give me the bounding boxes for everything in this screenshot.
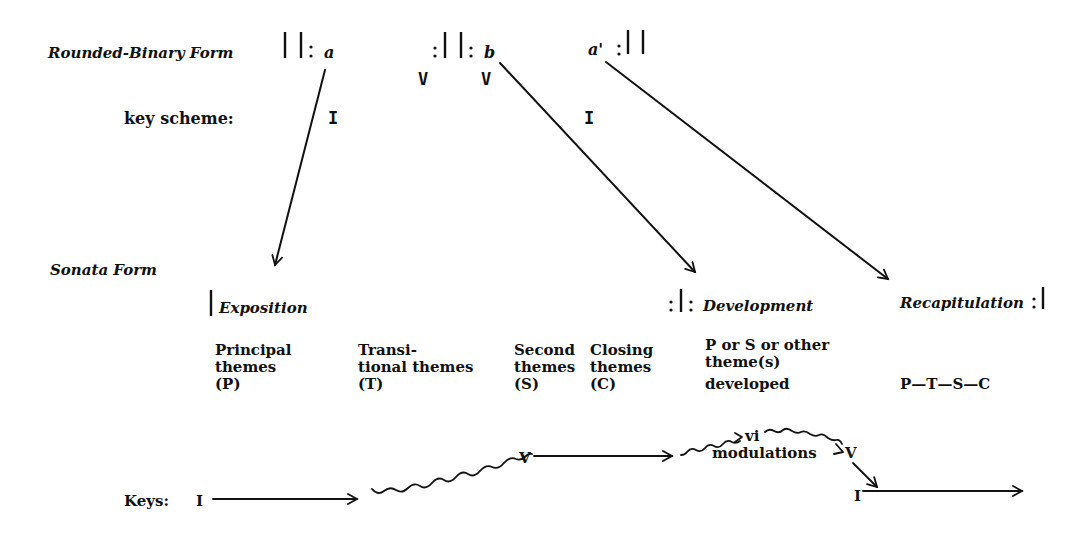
theme-principal: Principal themes (P) bbox=[215, 341, 292, 393]
svg-text:developed: developed bbox=[705, 375, 790, 393]
theme-transitional: Transi- tional themes (T) bbox=[358, 341, 473, 393]
repeat-close-open-sign bbox=[433, 32, 472, 58]
svg-text:themes: themes bbox=[590, 358, 651, 376]
recapitulation-label: Recapitulation bbox=[899, 294, 1024, 312]
svg-text:Principal: Principal bbox=[215, 341, 292, 359]
modulation-wave-to-dominant bbox=[372, 454, 532, 493]
modulation-wave-to-v bbox=[765, 429, 842, 444]
svg-text:Second: Second bbox=[514, 341, 575, 359]
arrow-v-to-tonic bbox=[853, 463, 877, 487]
key-start-i: I bbox=[196, 492, 203, 510]
sonata-form-label: Sonata Form bbox=[50, 261, 157, 279]
key-i-section-a: I bbox=[328, 108, 338, 128]
section-b: b bbox=[484, 43, 495, 62]
svg-text:tional themes: tional themes bbox=[358, 358, 473, 376]
key-dominant-v: V bbox=[518, 449, 531, 467]
exposition-label: Exposition bbox=[218, 299, 308, 317]
svg-text:themes: themes bbox=[215, 358, 276, 376]
svg-text:(S): (S) bbox=[514, 375, 539, 393]
repeat-close-sign bbox=[617, 30, 643, 56]
arrow-a-to-exposition bbox=[275, 70, 325, 265]
keys-label: Keys: bbox=[124, 492, 169, 510]
key-dominant-v-2: V bbox=[844, 444, 857, 462]
arrow-head-to-v bbox=[834, 444, 843, 454]
key-tonic-return: I bbox=[854, 487, 861, 505]
development-label: Development bbox=[702, 297, 813, 315]
arrow-b-to-development bbox=[500, 63, 695, 272]
theme-development: P or S or other theme(s) developed bbox=[705, 336, 830, 393]
development-repeat-sign bbox=[669, 289, 692, 312]
arrow-head-to-vi bbox=[735, 433, 742, 442]
svg-text:Transi-: Transi- bbox=[358, 341, 417, 359]
svg-text:theme(s): theme(s) bbox=[705, 353, 780, 371]
svg-text:themes: themes bbox=[514, 358, 575, 376]
key-i-section-b: I bbox=[584, 108, 594, 128]
key-scheme-label: key scheme: bbox=[124, 109, 234, 128]
repeat-open-sign bbox=[285, 32, 313, 58]
svg-text:P or S or other: P or S or other bbox=[705, 336, 830, 354]
rounded-binary-to-sonata-diagram: Rounded-Binary Form a b a' V V key schem… bbox=[0, 0, 1091, 543]
svg-text:(T): (T) bbox=[358, 375, 383, 393]
section-a-prime: a' bbox=[588, 40, 603, 59]
recapitulation-repeat-sign bbox=[1032, 287, 1043, 309]
key-v-end-a: V bbox=[418, 69, 428, 89]
recap-sequence: P—T—S—C bbox=[900, 375, 990, 393]
svg-text:Closing: Closing bbox=[590, 341, 654, 359]
theme-second: Second themes (S) bbox=[514, 341, 575, 393]
section-a: a bbox=[324, 43, 334, 62]
svg-text:(P): (P) bbox=[215, 375, 240, 393]
key-v-start-b: V bbox=[481, 69, 491, 89]
modulations-label: modulations bbox=[712, 444, 817, 462]
svg-text:(C): (C) bbox=[590, 375, 616, 393]
key-submediant-vi: vi bbox=[744, 427, 760, 445]
rounded-binary-label: Rounded-Binary Form bbox=[47, 44, 233, 62]
theme-closing: Closing themes (C) bbox=[590, 341, 654, 393]
arrow-a-prime-to-recapitulation bbox=[606, 62, 888, 279]
